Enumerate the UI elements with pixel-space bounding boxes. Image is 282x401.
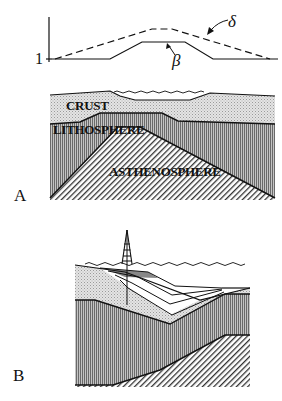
delta-leader-arrow: [211, 20, 228, 30]
beta-label: β: [171, 51, 181, 70]
delta-label: δ: [228, 12, 237, 31]
graph-tick-label: 1: [35, 50, 43, 67]
crust-label: CRUST: [66, 98, 109, 113]
cross-section-a: CRUST LITHOSPHERE ASTHENOSPHERE: [50, 91, 275, 200]
beta-curve: [52, 42, 278, 59]
sea-surface-b: [85, 263, 245, 266]
lithosphere-label: LITHOSPHERE: [53, 122, 144, 137]
cross-section-b: [75, 230, 250, 387]
figure-canvas: 1 δ β CRUST LITHOSPHERE ASTHENOSPHERE A: [0, 0, 282, 401]
panel-label-a: A: [14, 186, 27, 205]
delta-curve: [55, 29, 270, 59]
asthenosphere-label: ASTHENOSPHERE: [109, 164, 221, 179]
panel-label-b: B: [13, 366, 24, 385]
stretch-factor-graph: 1 δ β: [35, 12, 278, 70]
